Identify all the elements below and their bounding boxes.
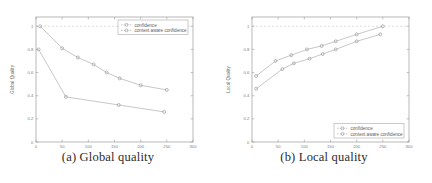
x-tick-label: 150 — [327, 144, 335, 149]
y-tick-label: 0 — [247, 140, 250, 145]
y-tick-label: 0.4 — [28, 93, 34, 98]
y-tick-label: 0.8 — [244, 47, 250, 52]
y-tick-label: 0.8 — [28, 47, 34, 52]
plot-frame — [36, 17, 193, 142]
x-tick-label: 250 — [379, 144, 387, 149]
caption-panel-b: (b) Local quality — [216, 150, 432, 165]
y-tick-label: 0 — [31, 140, 34, 145]
x-tick-label: 0 — [251, 144, 254, 149]
series-line-1 — [39, 49, 165, 112]
y-tick-label: 1 — [247, 24, 250, 29]
panel-global-quality: 05010015020025030000.20.40.60.81number o… — [0, 0, 216, 183]
panel-local-quality: 05010015020025030000.20.40.60.81number o… — [216, 0, 432, 183]
local-quality-svg: 05010015020025030000.20.40.60.81number o… — [216, 0, 432, 150]
x-tick-label: 150 — [111, 144, 119, 149]
legend-item-label: context aware confidence — [351, 132, 404, 137]
x-tick-label: 300 — [190, 144, 198, 149]
chart-global-quality: 05010015020025030000.20.40.60.81number o… — [0, 0, 216, 150]
x-tick-label: 300 — [406, 144, 414, 149]
series-line-2 — [256, 26, 383, 76]
y-axis-label: Local Quality — [226, 66, 231, 93]
caption-panel-a: (a) Global quality — [0, 150, 216, 165]
legend-item-label: context aware confidence — [135, 28, 188, 33]
figure-two-panel-line-charts: 05010015020025030000.20.40.60.81number o… — [0, 0, 432, 183]
y-axis-label: Global Quality — [10, 64, 15, 94]
x-tick-label: 50 — [276, 144, 281, 149]
y-tick-label: 0.2 — [28, 116, 34, 121]
chart-local-quality: 05010015020025030000.20.40.60.81number o… — [216, 0, 432, 150]
x-tick-label: 0 — [35, 144, 38, 149]
series-line-2 — [40, 26, 167, 90]
y-tick-label: 1 — [31, 24, 34, 29]
global-quality-svg: 05010015020025030000.20.40.60.81number o… — [0, 0, 216, 150]
x-tick-label: 100 — [85, 144, 93, 149]
y-tick-label: 0.2 — [244, 116, 250, 121]
y-tick-label: 0.4 — [244, 93, 250, 98]
x-tick-label: 100 — [301, 144, 309, 149]
x-tick-label: 200 — [353, 144, 361, 149]
legend-item-label: confidence — [135, 23, 158, 28]
y-tick-label: 0.6 — [244, 70, 250, 75]
legend-item-label: confidence — [351, 126, 374, 131]
x-tick-label: 50 — [60, 144, 65, 149]
x-tick-label: 200 — [137, 144, 145, 149]
y-tick-label: 0.6 — [28, 70, 34, 75]
x-tick-label: 250 — [163, 144, 171, 149]
